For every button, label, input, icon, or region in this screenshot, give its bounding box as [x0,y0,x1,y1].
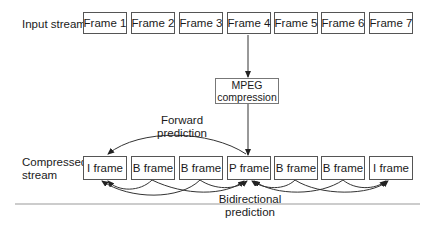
compressed-b-frame-4: B frame [321,156,365,180]
mpeg-line1: MPEG [216,79,278,91]
input-frame-6: Frame 6 [321,12,365,34]
compressed-i-frame-1: I frame [83,156,127,180]
compressed-stream-label: Compressed stream [22,156,87,182]
compressed-line2: stream [22,169,87,182]
bidirectional-line2: prediction [210,206,290,219]
input-stream-label: Input stream [22,18,86,31]
forward-prediction-label: Forward prediction [150,114,214,140]
compressed-p-frame: P frame [227,156,271,180]
input-frame-2: Frame 2 [131,12,175,34]
input-frame-7: Frame 7 [369,12,413,34]
compressed-i-frame-2: I frame [369,156,413,180]
input-frame-5: Frame 5 [274,12,318,34]
bidirectional-line1: Bidirectional [210,193,290,206]
input-frame-4: Frame 4 [227,12,271,34]
forward-line1: Forward [150,114,214,127]
input-frame-3: Frame 3 [179,12,223,34]
forward-line2: prediction [150,127,214,140]
compressed-line1: Compressed [22,156,87,169]
input-frame-1: Frame 1 [83,12,127,34]
mpeg-line2: compression [216,91,278,103]
bidirectional-prediction-label: Bidirectional prediction [210,193,290,219]
compressed-b-frame-3: B frame [274,156,318,180]
compressed-b-frame-2: B frame [179,156,223,180]
mpeg-compression-box: MPEG compression [215,78,279,104]
compressed-b-frame-1: B frame [131,156,175,180]
